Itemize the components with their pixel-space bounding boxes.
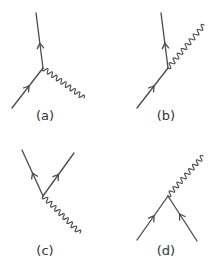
photon-wavy-line xyxy=(168,155,203,196)
photon-wavy-line xyxy=(168,24,204,68)
diagram-c xyxy=(22,150,81,233)
diagram-b-label: (b) xyxy=(157,109,175,122)
feynman-diagrams-canvas xyxy=(0,0,215,266)
diagram-a-label: (a) xyxy=(36,109,54,122)
photon-wavy-line xyxy=(42,68,84,98)
fermion-line xyxy=(137,196,168,240)
diagram-d-label: (d) xyxy=(157,244,175,257)
fermion-line xyxy=(12,68,43,108)
fermion-line xyxy=(137,68,168,108)
photon-wavy-line xyxy=(42,196,81,233)
diagram-c-label: (c) xyxy=(36,244,53,257)
diagram-d xyxy=(137,155,203,241)
diagram-b xyxy=(137,13,204,108)
fermion-line xyxy=(168,196,197,241)
diagram-a xyxy=(12,13,85,108)
fermion-line xyxy=(36,13,43,68)
fermion-line xyxy=(161,13,168,68)
